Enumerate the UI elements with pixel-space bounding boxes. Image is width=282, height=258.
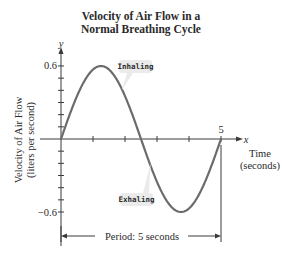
callouts: InhalingExhaling [117,60,155,206]
x-axis-arrow-icon [236,137,243,142]
chart: Velocity of Air Flow in a Normal Breathi… [0,0,282,258]
y-tick-label: 0.6 [44,60,57,71]
exhaling-callout: Exhaling [118,163,155,206]
y-axis-symbol: y [58,38,64,49]
inhaling-callout: Inhaling [117,60,154,90]
y-tick-label: −0.6 [38,207,57,218]
callout-pointer [143,163,151,193]
y-axis-label-line-1: Velocity of Air Flow [13,96,24,183]
x-tick-label: 5 [218,124,223,135]
period-left-arrow-icon [61,234,67,239]
chart-title-line-1: Velocity of Air Flow in a [82,10,201,23]
axes [40,47,243,246]
callout-pointer [122,73,133,90]
callout-label: Exhaling [118,195,155,204]
y-axis-label-line-2: (liters per second) [25,102,37,178]
x-axis-label-line-2: (seconds) [240,160,281,172]
x-axis-symbol: x [243,134,249,145]
callout-label: Inhaling [117,62,154,71]
chart-canvas: Velocity of Air Flow in a Normal Breathi… [0,0,282,258]
y-axis-label: Velocity of Air Flow (liters per second) [13,96,37,183]
x-axis-label-line-1: Time [249,148,271,159]
period-label: Period: 5 seconds [105,231,179,242]
period-right-arrow-icon [215,234,221,239]
chart-title-line-2: Normal Breathing Cycle [81,23,201,36]
